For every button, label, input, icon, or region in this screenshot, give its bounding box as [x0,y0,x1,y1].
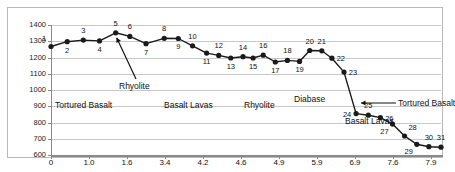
arrow-tortured-basalt-head [361,100,366,105]
x-tick-label-0: 0 [49,158,53,167]
y-tick-label-1400: 1400 [6,21,46,29]
arrow-rhyolite-line [117,38,136,79]
x-tick-label-4.9: 4.9 [273,158,284,167]
y-tick-label-800: 800 [6,119,46,127]
y-tick-label-1000: 1000 [6,86,46,94]
y-tick-label-900: 900 [6,102,46,110]
y-tick-label-1200: 1200 [6,54,46,62]
y-tick-label-700: 700 [6,135,46,143]
chart-frame: 60070080090010001100120013001400 1234567… [7,7,443,158]
x-tick-label-4.2: 4.2 [197,158,208,167]
x-tick-label-1.6: 1.6 [121,158,132,167]
x-tick-label-7.6: 7.6 [387,158,398,167]
x-tick-label-4.6: 4.6 [235,158,246,167]
plot-area: 60070080090010001100120013001400 1234567… [51,25,441,155]
x-tick-label-7.9: 7.9 [425,158,436,167]
point-label-1: 1 [42,35,46,43]
x-tick-label-6.9: 6.9 [349,158,360,167]
x-tick-label-5.9: 5.9 [311,158,322,167]
y-tick-label-1100: 1100 [6,70,46,78]
x-tick-label-3.4: 3.4 [159,158,170,167]
callout-arrows-group [51,25,443,157]
x-tick-label-1.0: 1.0 [83,158,94,167]
y-tick-label-1300: 1300 [6,37,46,45]
y-tick-label-600: 600 [6,151,46,159]
